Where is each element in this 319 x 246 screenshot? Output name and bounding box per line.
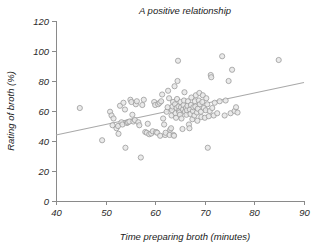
y-axis-tick-label: 60 [38, 106, 49, 117]
y-axis-tick-label: 80 [38, 76, 49, 87]
y-axis-tick-label: 40 [38, 136, 49, 147]
data-point [215, 111, 220, 116]
data-point [100, 138, 105, 143]
x-axis-tick-label: 80 [249, 207, 260, 218]
data-points-group [77, 54, 281, 160]
data-point [276, 57, 281, 62]
data-point [160, 92, 165, 97]
data-point [223, 98, 228, 103]
data-point [165, 88, 170, 93]
data-point [204, 96, 209, 101]
data-point [158, 133, 163, 138]
plot-canvas: 020406080100120405060708090A positive re… [0, 0, 319, 246]
data-point [179, 116, 184, 121]
data-point [168, 126, 173, 131]
data-point [205, 145, 210, 150]
data-point [138, 155, 143, 160]
data-point [235, 110, 240, 115]
data-point [209, 75, 214, 80]
data-point [123, 145, 128, 150]
data-point [141, 97, 146, 102]
data-point [145, 121, 150, 126]
y-axis-tick-label: 0 [44, 196, 50, 207]
data-point [180, 126, 185, 131]
x-axis-tick-label: 90 [299, 207, 310, 218]
data-point [182, 90, 187, 95]
data-point [226, 78, 231, 83]
x-axis-tick-label: 60 [150, 207, 161, 218]
y-axis-tick-label: 120 [33, 16, 50, 27]
x-axis-tick-label: 50 [101, 207, 112, 218]
data-point [229, 67, 234, 72]
y-axis-tick-label: 20 [37, 166, 49, 177]
x-axis-tick-label: 70 [200, 207, 211, 218]
data-point [162, 122, 167, 127]
data-point [171, 133, 176, 138]
y-axis-tick-label: 100 [33, 46, 50, 57]
data-point [172, 84, 177, 89]
data-point [137, 123, 142, 128]
chart-title: A positive relationship [138, 5, 231, 16]
data-point [222, 113, 227, 118]
data-point [175, 78, 180, 83]
x-axis-tick-label: 40 [51, 207, 62, 218]
data-point [217, 99, 222, 104]
data-point [159, 99, 164, 104]
data-point [116, 131, 121, 136]
data-point [121, 100, 126, 105]
data-point [220, 54, 225, 59]
data-point [210, 105, 215, 110]
x-axis-title: Time preparing broth (minutes) [120, 231, 250, 242]
data-point [161, 116, 166, 121]
scatter-chart: 020406080100120405060708090A positive re… [0, 0, 319, 246]
text-labels-group: 020406080100120405060708090A positive re… [5, 5, 310, 242]
data-point [140, 102, 145, 107]
data-point [187, 126, 192, 131]
data-point [175, 58, 180, 63]
data-point [233, 105, 238, 110]
data-point [212, 100, 217, 105]
y-axis-title: Rating of broth (%) [5, 71, 16, 151]
data-point [130, 112, 135, 117]
data-point [205, 102, 210, 107]
data-point [111, 116, 116, 121]
data-point [122, 107, 127, 112]
data-point [134, 99, 139, 104]
data-point [77, 105, 82, 110]
data-point [206, 114, 211, 119]
